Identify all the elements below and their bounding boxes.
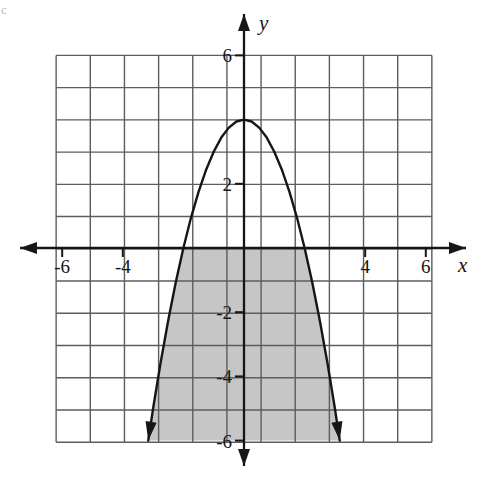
y-tick-label: -4 bbox=[216, 366, 232, 387]
x-tick-label: 4 bbox=[360, 256, 370, 277]
y-axis-label: y bbox=[257, 11, 269, 35]
y-axis-top-arrow-icon bbox=[238, 14, 250, 31]
graph-canvas: -6-44662-2-4-6 y x bbox=[0, 0, 483, 478]
x-axis-label: x bbox=[457, 253, 468, 277]
x-tick-label: 6 bbox=[421, 256, 431, 277]
x-tick-label: -4 bbox=[115, 256, 131, 277]
y-tick-label: -2 bbox=[216, 302, 232, 323]
y-tick-label: 2 bbox=[223, 174, 233, 195]
x-axis-left-arrow-icon bbox=[20, 242, 37, 254]
y-tick-label: 6 bbox=[223, 45, 233, 66]
x-tick-label: -6 bbox=[54, 256, 70, 277]
y-axis-bottom-arrow-icon bbox=[238, 449, 250, 466]
y-tick-label: -6 bbox=[216, 431, 232, 452]
